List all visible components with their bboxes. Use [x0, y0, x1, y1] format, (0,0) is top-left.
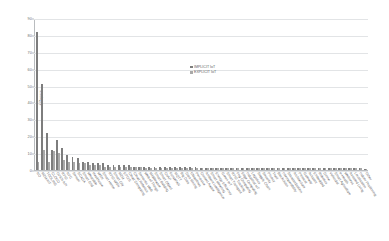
legend-swatch: [190, 71, 193, 74]
y-tick-label: 40: [28, 101, 32, 105]
x-tick-label: Other: [364, 172, 372, 181]
legend-item[interactable]: EXPLICIT IoT: [190, 70, 216, 74]
y-tick-mark: [32, 19, 34, 20]
bar: [36, 32, 38, 170]
bar-chart: # Papers 0102030405060708090 NOM2M-IoTTO…: [0, 0, 389, 241]
bar: [366, 169, 368, 170]
y-tick-mark: [32, 137, 34, 138]
x-label-slot: Other: [364, 172, 369, 238]
y-tick-label: 80: [28, 34, 32, 38]
legend-swatch: [190, 66, 193, 69]
y-tick-label: 20: [28, 135, 32, 139]
y-tick-mark: [32, 154, 34, 155]
y-tick-mark: [32, 86, 34, 87]
y-tick-mark: [32, 103, 34, 104]
legend-label: IMPLICIT IoT: [194, 65, 215, 69]
plot-area: 0102030405060708090: [34, 19, 368, 171]
bar-group: [363, 19, 368, 170]
legend-item[interactable]: IMPLICIT IoT: [190, 65, 216, 69]
y-tick-mark: [32, 69, 34, 70]
legend-label: EXPLICIT IoT: [194, 70, 216, 74]
y-tick-label: 30: [28, 118, 32, 122]
y-tick-mark: [32, 171, 34, 172]
y-tick-mark: [32, 52, 34, 53]
y-tick-label: 10: [28, 152, 32, 156]
y-tick-label: 50: [28, 85, 32, 89]
x-axis-labels: NOM2M-IoTTOOLINGCLOUDOPEN APIRFIDNFCSens…: [35, 172, 369, 238]
legend: IMPLICIT IoTEXPLICIT IoT: [190, 65, 216, 74]
y-tick-label: 90: [28, 17, 32, 21]
y-tick-label: 70: [28, 51, 32, 55]
bars-layer: [35, 19, 368, 170]
y-tick-label: 60: [28, 68, 32, 72]
y-tick-mark: [32, 120, 34, 121]
y-tick-mark: [32, 35, 34, 36]
